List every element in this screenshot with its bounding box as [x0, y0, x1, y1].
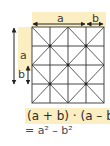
formula-result: = a² – b² [25, 124, 73, 137]
formula-expression: (a + b) · (a – b) [25, 108, 110, 124]
top-label-a: a [57, 13, 64, 24]
left-label-a: a [20, 50, 27, 61]
top-label-b: b [92, 13, 99, 24]
left-label-b: b [18, 69, 25, 80]
